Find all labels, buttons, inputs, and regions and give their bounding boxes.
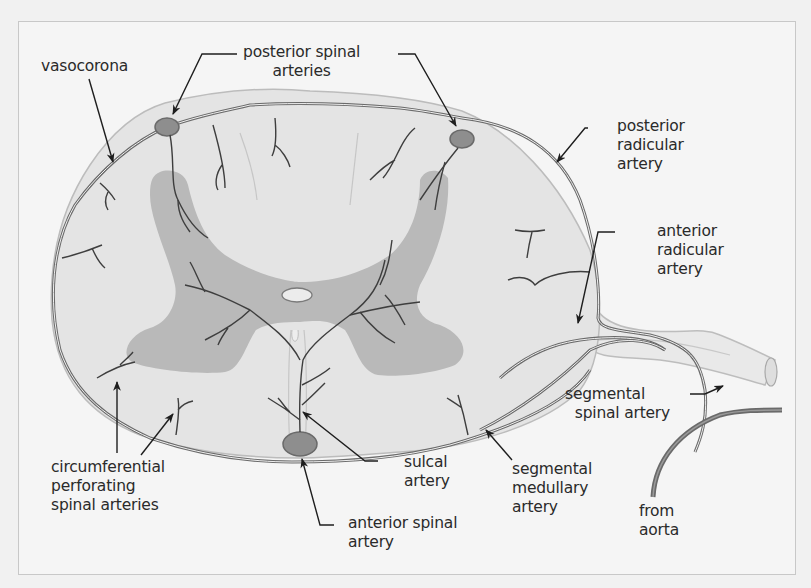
label-segmental-spinal-artery: segmental spinal artery — [565, 385, 670, 423]
label-posterior-radicular-artery: posterior radicular artery — [617, 117, 685, 174]
label-vasocorona: vasocorona — [41, 57, 128, 76]
label-posterior-spinal-arteries: posterior spinal arteries — [243, 43, 360, 81]
posterior-radicular-arrow — [557, 128, 588, 162]
nerve-cut-end — [765, 358, 777, 386]
anterior-spinal-artery-node — [283, 432, 317, 456]
label-circumferential-perforating: circumferential perforating spinal arter… — [51, 458, 165, 515]
label-anterior-radicular-artery: anterior radicular artery — [657, 222, 724, 279]
label-anterior-spinal-artery: anterior spinal artery — [348, 514, 457, 552]
label-sulcal-artery: sulcal artery — [404, 453, 450, 491]
median-fissure — [292, 330, 299, 341]
label-segmental-medullary-artery: segmental medullary artery — [512, 460, 592, 517]
label-from-aorta: from aorta — [639, 502, 679, 540]
posterior-spinal-artery-right — [450, 130, 474, 148]
diagram-stage: vasocorona posterior spinal arteries pos… — [0, 0, 811, 588]
segmental-artery-from-aorta — [653, 410, 782, 497]
posterior-spinal-artery-left — [155, 118, 179, 136]
central-canal — [282, 288, 312, 302]
anterior-spinal-arrow — [302, 459, 334, 525]
